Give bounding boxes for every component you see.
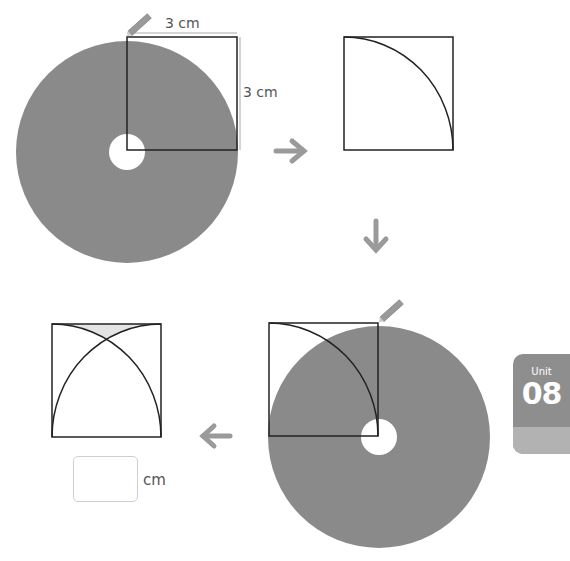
arrow-left-icon (203, 426, 230, 446)
unit-tab: Unit 08 (513, 354, 570, 454)
step2-square (344, 37, 453, 150)
unit-number: 08 (513, 376, 570, 411)
width-label: 3 cm (165, 15, 200, 31)
arrow-down-icon (366, 221, 386, 250)
step2-arc (344, 37, 453, 150)
step4-figure (52, 324, 161, 437)
step3-disk (268, 326, 490, 548)
height-label: 3 cm (243, 84, 278, 100)
arrow-right-icon (276, 141, 304, 161)
unit-tab-bottom-band (513, 427, 570, 454)
answer-input-box[interactable] (73, 456, 138, 502)
pencil-icon (125, 14, 151, 39)
pencil-icon (377, 300, 403, 325)
answer-unit-label: cm (143, 471, 166, 489)
